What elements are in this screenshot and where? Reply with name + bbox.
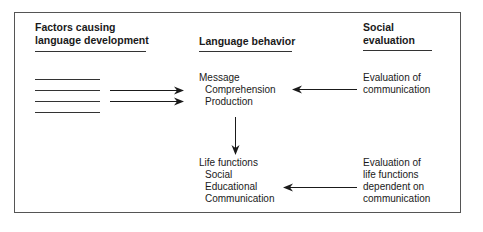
- arrow-left-icon: [292, 86, 357, 94]
- arrow-down-icon: [232, 117, 240, 155]
- arrow-right-icon: [110, 87, 184, 95]
- arrow-left-icon: [283, 184, 357, 192]
- arrow-right-icon: [110, 98, 184, 106]
- arrows-layer: [0, 0, 483, 232]
